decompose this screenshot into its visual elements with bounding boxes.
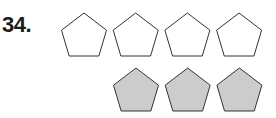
pentagon-shape bbox=[217, 68, 262, 111]
pentagon-shape bbox=[62, 13, 107, 56]
shaded-pentagon-row bbox=[114, 68, 262, 111]
pentagon-shape bbox=[114, 68, 159, 111]
pentagon-shape bbox=[113, 13, 158, 56]
pentagon-shape bbox=[217, 13, 262, 56]
pentagon-figure bbox=[0, 0, 276, 118]
pentagon-shape bbox=[165, 68, 210, 111]
pentagon-shape bbox=[165, 13, 210, 56]
white-pentagon-row bbox=[62, 13, 262, 56]
